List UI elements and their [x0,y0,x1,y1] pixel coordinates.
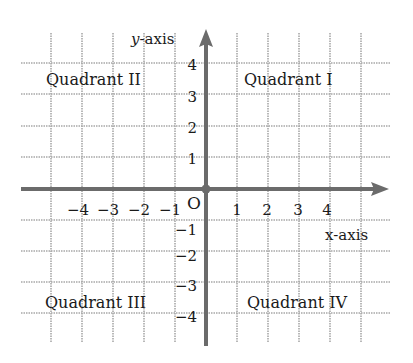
origin-label: O [187,193,201,213]
x-tick-label: 1 [232,201,242,219]
y-axis-label: y-axis [130,30,174,48]
y-tick-label: −2 [175,247,197,265]
quadrant-ii-label: Quadrant II [46,70,141,89]
y-tick-label: −3 [175,277,197,295]
y-tick-label: −4 [175,308,197,326]
y-tick-label: 3 [187,88,197,106]
quadrant-i-label: Quadrant I [244,70,333,89]
x-axis-label: x-axis [325,226,368,244]
quadrant-iv-label: Quadrant IV [247,293,348,312]
coordinate-plane: −4 −3 −2 −1 1 2 3 4 4 3 2 1 −1 −2 −3 −4 … [0,0,413,363]
origin-point [202,185,211,194]
quadrant-iii-label: Quadrant III [45,293,146,312]
x-tick-label: 3 [293,201,303,219]
y-tick-label: −1 [175,221,197,239]
y-tick-label: 4 [187,56,197,74]
x-tick-label: −3 [97,201,119,219]
x-tick-label: 4 [322,201,332,219]
y-axis-label-suffix: -axis [139,30,174,48]
y-tick-label: 1 [187,150,197,168]
x-tick-label: 2 [262,201,272,219]
x-tick-label: −1 [159,201,181,219]
y-tick-label: 2 [187,119,197,137]
x-tick-label: −2 [128,201,150,219]
x-tick-label: −4 [67,201,89,219]
